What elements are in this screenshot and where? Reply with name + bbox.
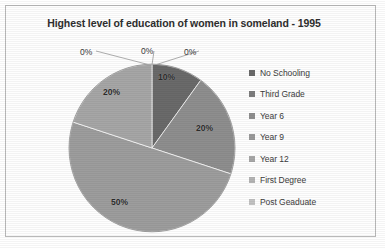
legend-item[interactable]: No Schooling bbox=[249, 62, 367, 84]
legend-swatch-icon bbox=[249, 199, 255, 205]
chart-legend: No SchoolingThird GradeYear 6Year 9Year … bbox=[249, 62, 367, 213]
legend-item[interactable]: Year 12 bbox=[249, 148, 367, 170]
legend-item[interactable]: First Degree bbox=[249, 170, 367, 192]
legend-swatch-icon bbox=[249, 156, 255, 162]
legend-item-label: Post Geaduate bbox=[260, 197, 316, 207]
legend-swatch-icon bbox=[249, 91, 255, 97]
legend-item-label: Year 12 bbox=[260, 154, 289, 164]
legend-item[interactable]: Year 9 bbox=[249, 127, 367, 149]
legend-item[interactable]: Year 6 bbox=[249, 105, 367, 127]
pie-data-label: 10% bbox=[158, 72, 175, 82]
legend-swatch-icon bbox=[249, 70, 255, 76]
pie-zero-label: 0% bbox=[80, 47, 92, 57]
legend-item-label: No Schooling bbox=[260, 68, 310, 78]
legend-item-label: First Degree bbox=[260, 175, 306, 185]
pie-zero-label: 0% bbox=[184, 47, 196, 57]
legend-item-label: Year 6 bbox=[260, 111, 284, 121]
pie-data-label: 20% bbox=[196, 123, 213, 133]
pie-slices-group bbox=[69, 64, 235, 232]
legend-swatch-icon bbox=[249, 134, 255, 140]
pie-data-label: 20% bbox=[103, 87, 120, 97]
chart-screenshot: Highest level of education of women in s… bbox=[0, 0, 385, 248]
legend-item-label: Third Grade bbox=[260, 89, 305, 99]
legend-swatch-icon bbox=[249, 113, 255, 119]
legend-item[interactable]: Post Geaduate bbox=[249, 191, 367, 213]
legend-swatch-icon bbox=[249, 177, 255, 183]
pie-data-label: 50% bbox=[111, 197, 128, 207]
pie-zero-label: 0% bbox=[141, 46, 153, 56]
legend-item-label: Year 9 bbox=[260, 132, 284, 142]
legend-item[interactable]: Third Grade bbox=[249, 84, 367, 106]
